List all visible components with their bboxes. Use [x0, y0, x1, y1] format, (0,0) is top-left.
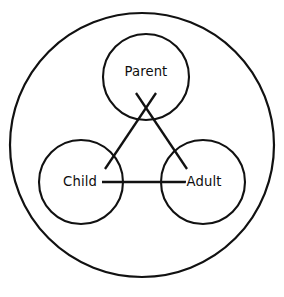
node-label-child: Child: [63, 174, 97, 189]
node-label-parent: Parent: [125, 64, 168, 79]
diagram-canvas: Parent Child Adult: [0, 0, 284, 297]
ego-states-diagram: Parent Child Adult: [0, 0, 284, 297]
node-label-adult: Adult: [187, 174, 222, 189]
outer-container-circle: [10, 13, 274, 277]
